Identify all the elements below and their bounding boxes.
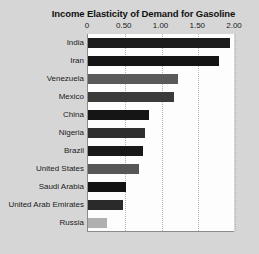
bar-row — [88, 124, 234, 142]
bar — [88, 92, 174, 102]
plot-area — [87, 34, 234, 232]
x-tick-label: 1.50 — [189, 21, 205, 30]
category-label: Iran — [70, 52, 84, 70]
bar — [88, 164, 139, 174]
bars-group — [88, 34, 234, 231]
bar-row — [88, 106, 234, 124]
category-label: Nigeria — [59, 124, 84, 142]
bar — [88, 74, 178, 84]
category-label: Brazil — [64, 142, 84, 160]
category-label: United Arab Emirates — [8, 196, 84, 214]
bar — [88, 110, 149, 120]
category-label: Russia — [60, 214, 84, 232]
bar — [88, 218, 107, 228]
bar-row — [88, 34, 234, 52]
bar — [88, 146, 143, 156]
category-label: Mexico — [59, 88, 84, 106]
category-label: Saudi Arabia — [39, 178, 84, 196]
x-tick-label: 0 — [85, 21, 89, 30]
bar-row — [88, 52, 234, 70]
category-label: China — [63, 106, 84, 124]
bar — [88, 182, 126, 192]
bar-row — [88, 196, 234, 214]
chart-title: Income Elasticity of Demand for Gasoline — [0, 8, 259, 19]
bar — [88, 128, 145, 138]
bar — [88, 56, 219, 66]
bar — [88, 200, 123, 210]
bar-row — [88, 160, 234, 178]
bar-row — [88, 88, 234, 106]
category-label: India — [67, 34, 84, 52]
category-label: Venezuela — [47, 70, 84, 88]
bar-row — [88, 178, 234, 196]
chart-container: Income Elasticity of Demand for Gasoline… — [0, 0, 259, 254]
x-tick-label: 1.00 — [153, 21, 169, 30]
category-label: United States — [36, 160, 84, 178]
bar-row — [88, 214, 234, 232]
x-tick-label: 2.00 — [226, 21, 242, 30]
x-tick-label: 0.50 — [116, 21, 132, 30]
bar-row — [88, 70, 234, 88]
gridline — [235, 34, 236, 231]
category-axis-labels: IndiaIranVenezuelaMexicoChinaNigeriaBraz… — [0, 34, 84, 232]
x-axis-tick-labels: 00.501.001.502.00 — [87, 21, 234, 34]
bar-row — [88, 142, 234, 160]
bar — [88, 38, 230, 48]
